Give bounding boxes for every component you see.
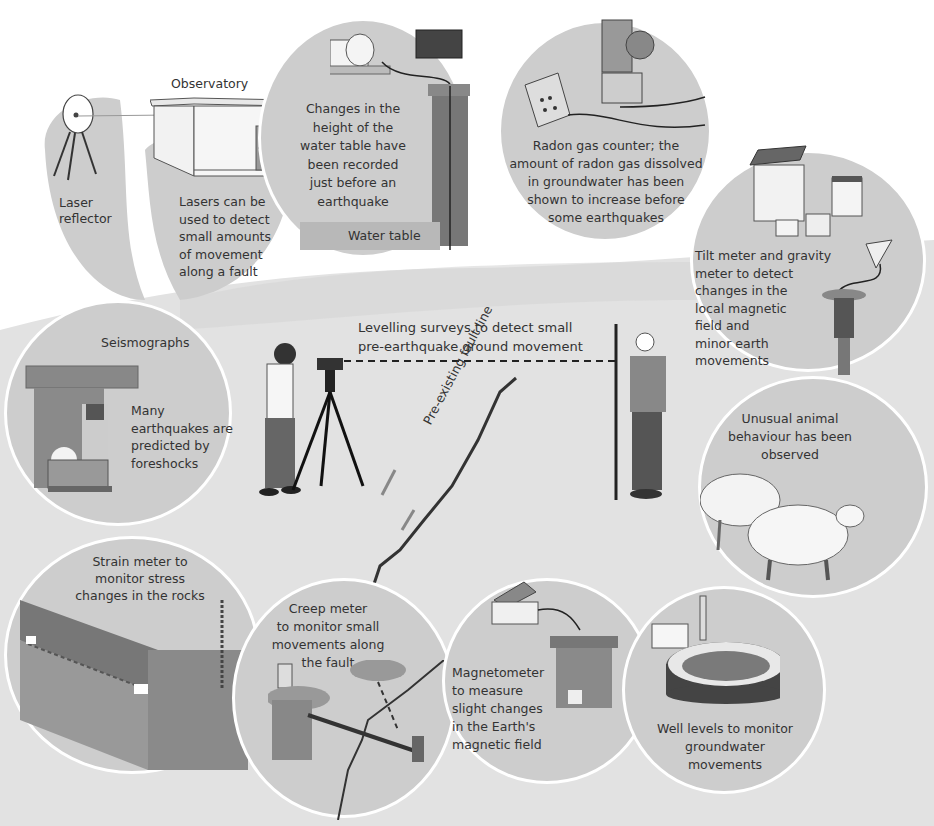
animals-label: Unusual animal behaviour has been observ…	[715, 410, 865, 464]
fault-arrow-up	[402, 510, 414, 530]
strain-meter-icon	[18, 600, 258, 770]
well-levels-label: Well levels to monitor groundwater movem…	[645, 720, 805, 774]
fault-arrow-down	[382, 470, 395, 495]
magnetometer-label: Magnetometer to measure slight changes i…	[452, 664, 592, 754]
sheep-icon	[700, 460, 870, 585]
strain-meter-label: Strain meter to monitor stress changes i…	[70, 553, 210, 604]
well-icon	[650, 594, 780, 704]
creep-meter-icon	[268, 660, 458, 820]
